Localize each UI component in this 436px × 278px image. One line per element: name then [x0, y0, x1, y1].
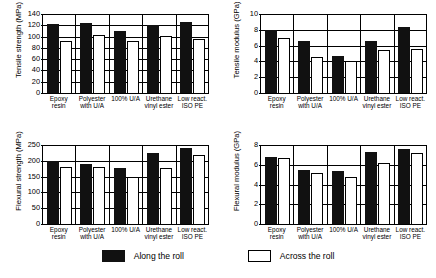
- figure-four-panel-bar-charts: Tensile strength (MPa)020406080100120140…: [0, 0, 436, 278]
- y-tick-label: 0: [232, 220, 258, 227]
- bar-across-the-roll: [311, 57, 323, 93]
- x-tick-label: 100% U/A: [327, 226, 360, 241]
- x-axis-labels: Epoxy resinPolyester with U/A100% U/AUre…: [42, 226, 209, 241]
- x-axis-labels: Epoxy resinPolyester with U/A100% U/AUre…: [260, 226, 427, 241]
- x-tick-label: Low react. ISO PE: [394, 95, 427, 110]
- bar-along-the-roll: [47, 24, 59, 93]
- bar-group: [294, 145, 327, 224]
- y-tick-label: 100: [14, 33, 40, 40]
- bar-along-the-roll: [147, 153, 159, 224]
- bar-across-the-roll: [278, 38, 290, 93]
- bar-along-the-roll: [365, 152, 377, 224]
- bar-along-the-roll: [114, 31, 126, 93]
- bar-across-the-roll: [93, 35, 105, 93]
- y-tick-label: 200: [14, 157, 40, 164]
- bar-group: [43, 14, 76, 93]
- x-tick-label: 100% U/A: [109, 95, 142, 110]
- x-tick-label: Epoxy resin: [42, 226, 75, 241]
- x-tick-label: 100% U/A: [327, 95, 360, 110]
- bar-across-the-roll: [345, 177, 357, 224]
- panel-tensile-strength: Tensile strength (MPa)020406080100120140…: [0, 2, 218, 122]
- x-tick-label: Urethane vinyl ester: [360, 226, 393, 241]
- panel-flexural-strength: Flexural strength (MPa)050100150200250Ep…: [0, 133, 218, 253]
- y-tick-label: 60: [14, 55, 40, 62]
- legend-swatch-outlined-icon: [248, 250, 271, 262]
- y-tick-label: 4: [232, 181, 258, 188]
- legend-item-across-the-roll: Across the roll: [248, 250, 334, 262]
- y-tick-label: 8: [232, 26, 258, 33]
- y-tick-label: 10: [232, 10, 258, 17]
- x-axis-labels: Epoxy resinPolyester with U/A100% U/AUre…: [42, 95, 209, 110]
- bar-along-the-roll: [180, 22, 192, 93]
- bar-along-the-roll: [332, 171, 344, 224]
- y-tick-label: 4: [232, 58, 258, 65]
- bar-group: [261, 145, 294, 224]
- plot-area: 02468: [260, 145, 427, 225]
- y-tick-label: 100: [14, 189, 40, 196]
- x-tick-label: Epoxy resin: [260, 226, 293, 241]
- x-tick-label: Low react. ISO PE: [176, 95, 209, 110]
- legend-swatch-filled-icon: [102, 250, 125, 262]
- bar-groups: [261, 14, 427, 93]
- y-tick-label: 20: [14, 78, 40, 85]
- bar-across-the-roll: [160, 36, 172, 93]
- x-tick-label: Urethane vinyl ester: [360, 95, 393, 110]
- bar-group: [395, 145, 427, 224]
- bar-across-the-roll: [345, 61, 357, 93]
- y-tick-label: 6: [232, 161, 258, 168]
- bar-group: [361, 145, 394, 224]
- bar-along-the-roll: [80, 23, 92, 93]
- x-tick-label: Low react. ISO PE: [176, 226, 209, 241]
- bar-group: [177, 145, 209, 224]
- bar-across-the-roll: [378, 163, 390, 224]
- bar-groups: [43, 14, 209, 93]
- y-tick-label: 150: [14, 173, 40, 180]
- bar-group: [361, 14, 394, 93]
- bar-group: [328, 14, 361, 93]
- bar-group: [294, 14, 327, 93]
- bar-along-the-roll: [332, 56, 344, 93]
- x-tick-label: Polyester with U/A: [293, 95, 326, 110]
- y-tick-mark: [259, 224, 262, 225]
- bar-along-the-roll: [147, 25, 159, 93]
- bar-across-the-roll: [378, 50, 390, 93]
- y-tick-label: 250: [14, 141, 40, 148]
- plot-area: 050100150200250: [42, 145, 209, 225]
- chart-legend: Along the roll Across the roll: [0, 250, 436, 262]
- bar-across-the-roll: [60, 167, 72, 224]
- y-tick-label: 0: [14, 89, 40, 96]
- legend-label: Along the roll: [134, 252, 184, 261]
- y-tick-label: 140: [14, 10, 40, 17]
- x-tick-label: 100% U/A: [109, 226, 142, 241]
- bar-group: [143, 14, 176, 93]
- y-tick-mark: [41, 224, 44, 225]
- panel-tensile-modulus: Tensile modulus (GPa)0246810Epoxy resinP…: [218, 2, 436, 122]
- bar-group: [43, 145, 76, 224]
- y-tick-mark: [259, 93, 262, 94]
- bar-across-the-roll: [193, 155, 205, 224]
- plot-area: 0246810: [260, 14, 427, 94]
- bar-along-the-roll: [398, 27, 410, 93]
- bar-group: [143, 145, 176, 224]
- bar-along-the-roll: [180, 148, 192, 224]
- bar-along-the-roll: [365, 41, 377, 93]
- bar-group: [328, 145, 361, 224]
- x-tick-label: Epoxy resin: [42, 95, 75, 110]
- x-tick-label: Urethane vinyl ester: [142, 95, 175, 110]
- y-tick-label: 2: [232, 201, 258, 208]
- plot-area: 020406080100120140: [42, 14, 209, 94]
- bar-along-the-roll: [47, 161, 59, 224]
- y-tick-label: 80: [14, 44, 40, 51]
- bar-group: [76, 145, 109, 224]
- x-tick-label: Urethane vinyl ester: [142, 226, 175, 241]
- x-tick-label: Epoxy resin: [260, 95, 293, 110]
- bar-across-the-roll: [411, 153, 423, 224]
- bar-across-the-roll: [93, 167, 105, 224]
- y-tick-label: 0: [14, 220, 40, 227]
- legend-label: Across the roll: [280, 252, 334, 261]
- bar-across-the-roll: [60, 41, 72, 93]
- bar-across-the-roll: [278, 158, 290, 224]
- x-tick-label: Polyester with U/A: [293, 226, 326, 241]
- bar-across-the-roll: [193, 39, 205, 93]
- bar-group: [110, 145, 143, 224]
